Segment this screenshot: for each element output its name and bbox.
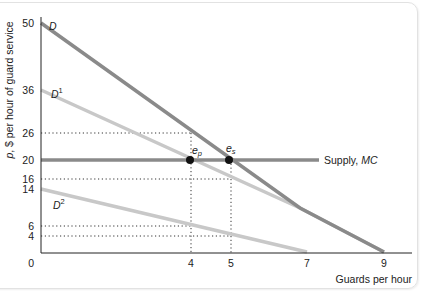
y-tick: 20 bbox=[22, 154, 34, 166]
x-tick: 9 bbox=[381, 257, 387, 269]
label-d2-sup: 2 bbox=[61, 197, 65, 206]
label-es: es bbox=[226, 142, 236, 156]
equilibrium-point-es bbox=[225, 156, 233, 164]
y-tick-labels: 50 36 26 20 16 14 6 4 0 bbox=[22, 17, 34, 269]
label-d: D bbox=[49, 20, 57, 32]
label-supply: Supply, MC bbox=[324, 154, 378, 166]
x-axis-title: Guards per hour bbox=[336, 273, 413, 285]
label-ep: ep bbox=[192, 144, 202, 158]
demand-curve-d bbox=[41, 23, 384, 252]
origin-label: 0 bbox=[28, 257, 34, 269]
label-d1-sup: 1 bbox=[59, 86, 63, 95]
x-tick-labels: 4 5 7 9 bbox=[188, 257, 387, 269]
y-axis-title-rest: , $ per hour of guard service bbox=[3, 21, 15, 152]
label-es-sub: s bbox=[232, 147, 236, 156]
equilibrium-point-ep bbox=[186, 156, 194, 164]
chart-svg: 50 36 26 20 16 14 6 4 0 4 5 7 9 Guards p… bbox=[0, 0, 424, 295]
demand-curve-d2 bbox=[41, 189, 307, 252]
y-tick: 14 bbox=[22, 183, 34, 195]
x-tick: 7 bbox=[304, 257, 310, 269]
label-supply-main: Supply, bbox=[324, 154, 361, 166]
y-tick: 26 bbox=[22, 127, 34, 139]
y-tick: 50 bbox=[22, 17, 34, 29]
label-ep-sub: p bbox=[197, 149, 202, 158]
reference-lines bbox=[41, 133, 231, 253]
y-tick: 36 bbox=[22, 84, 34, 96]
label-d2: D2 bbox=[53, 197, 65, 211]
x-tick: 5 bbox=[228, 257, 234, 269]
y-tick: 4 bbox=[28, 230, 34, 242]
x-tick: 4 bbox=[188, 257, 194, 269]
label-supply-mc: MC bbox=[361, 154, 378, 166]
y-axis-title: p, $ per hour of guard service bbox=[3, 21, 15, 159]
demand-curve-d1 bbox=[41, 90, 384, 252]
